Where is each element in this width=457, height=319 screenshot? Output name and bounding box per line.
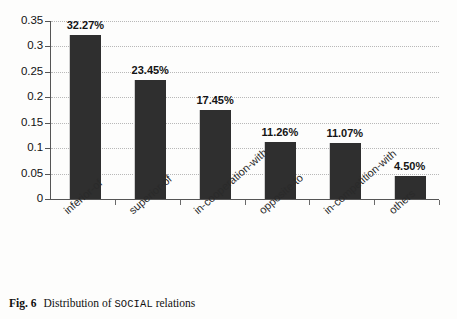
y-axis-label: 0 xyxy=(37,193,43,205)
x-axis-tick xyxy=(439,200,440,205)
y-axis-label: 0.35 xyxy=(21,15,43,27)
gridline xyxy=(51,72,439,73)
figure-container: 00.050.10.150.20.250.30.35 32.27%23.45%1… xyxy=(0,0,457,319)
bar-chart: 00.050.10.150.20.250.30.35 32.27%23.45%1… xyxy=(0,0,457,285)
y-axis-label: 0.25 xyxy=(21,66,43,78)
y-axis-label: 0.3 xyxy=(27,40,43,52)
x-axis-category-label: others xyxy=(387,188,417,216)
bar-value-label: 11.07% xyxy=(315,128,375,139)
bar-value-label: 32.27% xyxy=(55,20,115,31)
caption-suffix: relations xyxy=(156,297,196,309)
gridline xyxy=(51,46,439,47)
bar-value-label: 17.45% xyxy=(185,95,245,106)
bar-value-label: 11.26% xyxy=(250,127,310,138)
x-axis-tick xyxy=(374,200,375,205)
x-axis-tick xyxy=(309,200,310,205)
gridline xyxy=(51,123,439,124)
y-axis-label: 0.1 xyxy=(27,142,43,154)
x-axis-tick xyxy=(180,200,181,205)
gridline xyxy=(51,148,439,149)
caption-mono-term: SOCIAL xyxy=(114,298,152,310)
x-axis-tick xyxy=(245,200,246,205)
y-axis-label: 0.15 xyxy=(21,117,43,129)
bar-value-label: 23.45% xyxy=(120,65,180,76)
x-axis-tick xyxy=(115,200,116,205)
y-axis-label: 0.05 xyxy=(21,168,43,180)
y-axis-line xyxy=(50,21,51,200)
bar xyxy=(69,35,101,199)
figure-caption: Fig. 6Distribution of SOCIAL relations xyxy=(9,296,195,311)
caption-prefix: Distribution of xyxy=(43,297,111,309)
figure-number: Fig. 6 xyxy=(9,297,36,309)
y-axis-label: 0.2 xyxy=(27,91,43,103)
